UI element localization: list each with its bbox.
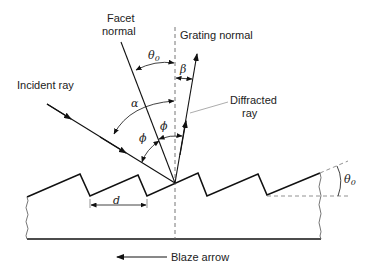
- beta-indicator: [176, 78, 192, 79]
- groove-spacing-label: d: [113, 194, 120, 207]
- incident-ray-label: Incident ray: [17, 79, 74, 91]
- grating-normal-label: Grating normal: [180, 29, 253, 41]
- blaze-arrow-label: Blaze arrow: [171, 251, 229, 263]
- phi-arc-right: [159, 136, 182, 139]
- diffracted-ray-label-1: Diffracted: [230, 94, 277, 106]
- theta0-arc-right: [337, 166, 341, 196]
- theta0-arc-top: [136, 62, 174, 70]
- incident-ray-arrow-2: [100, 137, 126, 153]
- grating-diagram: Facet normal Grating normal Incident ray…: [0, 0, 368, 270]
- incident-ray-arrow-1: [47, 104, 71, 119]
- left-break-edge: [26, 197, 28, 239]
- diffracted-ray-leader: [190, 102, 228, 113]
- facet-normal-label-2: normal: [102, 25, 136, 37]
- blaze-facet-extension: [320, 161, 348, 173]
- diffracted-ray-arrow-mid: [180, 121, 186, 155]
- beta-label: β: [179, 63, 186, 76]
- facet-normal-label-1: Facet: [107, 12, 135, 24]
- grating-body: [26, 173, 321, 239]
- theta0-label-top: θ0: [148, 49, 160, 63]
- theta0-label-right: θ0: [344, 173, 356, 187]
- diffracted-ray-label-2: ray: [242, 107, 258, 119]
- alpha-label: α: [131, 97, 139, 110]
- facet-normal-line: [121, 42, 175, 183]
- sawtooth-profile: [27, 173, 320, 197]
- phi-label-left: ϕ: [139, 132, 147, 145]
- right-break-edge: [319, 173, 321, 239]
- phi-label-right: ϕ: [160, 120, 168, 133]
